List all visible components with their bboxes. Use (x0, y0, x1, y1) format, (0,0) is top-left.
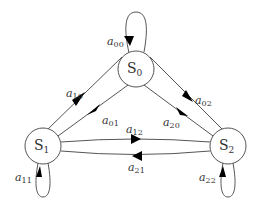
edge-label-a11: a11 (15, 172, 32, 185)
arrowhead-a02-icon (182, 90, 193, 102)
node-s2-base: S (219, 137, 229, 153)
arrowhead-a21-icon (132, 151, 142, 161)
node-s2-sub: 2 (229, 145, 235, 155)
diagram-canvas (0, 0, 258, 207)
node-s1-label: S1 (34, 138, 49, 155)
arrowhead-a20-icon (176, 107, 188, 116)
edge-label-a20: a20 (163, 117, 180, 130)
node-s1-base: S (34, 137, 44, 153)
node-s0-label: S0 (127, 61, 142, 78)
edge-label-a12: a12 (126, 124, 143, 137)
edge-label-a22-sub: 22 (206, 176, 216, 185)
edge-label-a02: a02 (195, 95, 212, 108)
edge-label-a00-sub: 00 (114, 40, 124, 49)
edge-a00 (126, 12, 147, 53)
edge-label-a22: a22 (199, 172, 216, 185)
edge-label-a00: a00 (107, 36, 124, 49)
arrowhead-a00-icon (124, 36, 134, 46)
node-s2-label: S2 (219, 138, 234, 155)
node-s0-sub: 0 (137, 68, 143, 78)
edge-label-a21-sub: 21 (135, 166, 145, 175)
state-transition-diagram: S0 S1 S2 a00 a01 a10 a02 a20 a12 a21 a11… (0, 0, 258, 207)
arrowhead-a22-icon (219, 166, 226, 177)
edge-label-a20-sub: 20 (170, 121, 180, 130)
edge-label-a21: a21 (128, 162, 145, 175)
edge-label-a12-sub: 12 (133, 128, 143, 137)
edge-label-a10-sub: 10 (73, 92, 83, 101)
edge-label-a02-sub: 02 (202, 99, 212, 108)
edge-label-a01-sub: 01 (109, 119, 119, 128)
edge-a21 (61, 151, 210, 155)
edge-label-a11-sub: 11 (22, 176, 32, 185)
edge-label-a01: a01 (102, 115, 119, 128)
node-s0-base: S (127, 60, 137, 76)
edge-label-a10: a10 (66, 88, 83, 101)
edge-a11 (36, 163, 50, 197)
node-s1-sub: 1 (44, 145, 50, 155)
